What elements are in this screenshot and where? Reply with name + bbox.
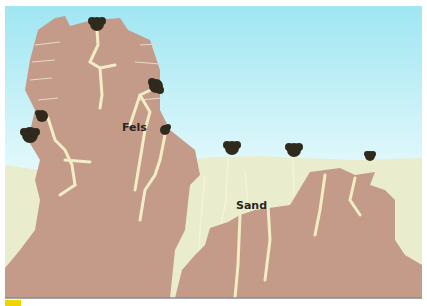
corner-mark: [5, 300, 21, 306]
label-rock: Fels: [122, 121, 147, 134]
label-sand: Sand: [236, 199, 267, 212]
rock-and-sand-diagram: [0, 0, 427, 306]
